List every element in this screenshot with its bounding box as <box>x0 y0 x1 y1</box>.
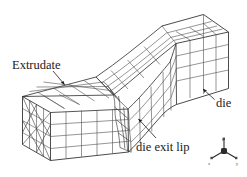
die-exit-lip-transition <box>104 82 132 152</box>
mesh-diagram <box>0 0 247 177</box>
label-die: die <box>216 96 231 111</box>
axis-z-label: z <box>222 137 224 142</box>
extrusion-mesh-figure: Extrudate die die exit lip z x y <box>0 0 247 177</box>
die-leader-arrow <box>203 89 215 100</box>
die-exit-lip-leader-arrow <box>139 119 157 138</box>
axis-y-label: y <box>236 161 238 166</box>
label-extrudate: Extrudate <box>12 58 61 73</box>
label-die-exit-lip: die exit lip <box>136 140 189 155</box>
extrudate-leader-arrow <box>53 71 65 85</box>
axis-x-label: x <box>208 161 210 166</box>
